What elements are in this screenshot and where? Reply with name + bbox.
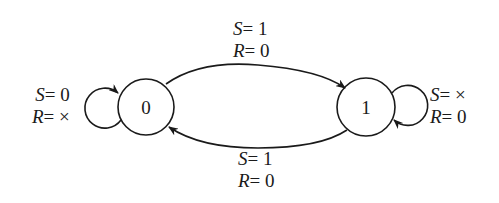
var-r: R xyxy=(430,106,442,127)
transition-0-to-1-label: S= 1 R= 0 xyxy=(233,18,270,62)
value: = × xyxy=(440,84,466,105)
var-r: R xyxy=(233,40,245,61)
var-s: S xyxy=(35,84,45,105)
var-r: R xyxy=(238,170,250,191)
value: = 1 xyxy=(243,18,268,39)
transition-0-to-0-label: S= 0 R= × xyxy=(32,84,70,128)
value: = 0 xyxy=(250,170,275,191)
var-r: R xyxy=(32,106,44,127)
value: = 0 xyxy=(245,40,270,61)
state-1-node: 1 xyxy=(337,78,395,136)
state-0-node: 0 xyxy=(118,79,174,135)
transition-1-to-1-arrow xyxy=(392,85,428,125)
transition-0-to-0-arrow xyxy=(85,88,121,128)
transition-1-to-0-label: S= 1 R= 0 xyxy=(238,148,275,192)
state-1-label: 1 xyxy=(361,97,371,118)
var-s: S xyxy=(238,148,248,169)
transition-0-to-1-arrow xyxy=(166,64,345,88)
var-s: S xyxy=(233,18,243,39)
transition-1-to-0-arrow xyxy=(169,127,347,148)
value: = 0 xyxy=(442,106,467,127)
value: = 0 xyxy=(45,84,70,105)
var-s: S xyxy=(430,84,440,105)
state-0-label: 0 xyxy=(141,97,151,118)
value: = 1 xyxy=(248,148,273,169)
transition-1-to-1-label: S= × R= 0 xyxy=(430,84,467,128)
value: = × xyxy=(44,106,70,127)
